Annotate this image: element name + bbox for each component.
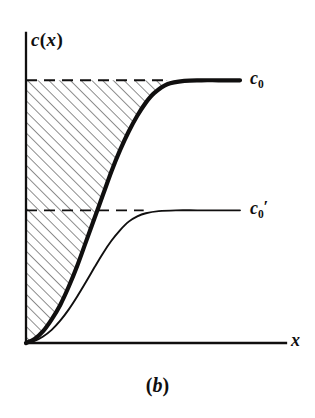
caption-paren-open: ( <box>146 374 153 396</box>
figure-container: c(x) x c0 c0′ (b) <box>0 0 315 418</box>
c0-label-subscript: 0 <box>258 78 264 90</box>
y-axis-label-c: c <box>31 29 40 50</box>
c0prime-label-prime: ′ <box>263 197 268 216</box>
y-axis-label: c(x) <box>31 30 63 49</box>
caption-paren-close: ) <box>163 374 170 396</box>
y-axis-label-x: x <box>47 29 57 50</box>
c0prime-curve-label: c0′ <box>250 199 269 217</box>
x-axis-label: x <box>291 331 300 349</box>
c0-label-base: c <box>250 68 258 88</box>
c0-curve-label: c0 <box>250 69 264 87</box>
y-axis-label-paren-open: ( <box>40 29 47 50</box>
figure-caption: (b) <box>0 375 315 395</box>
caption-letter: b <box>153 374 163 396</box>
y-axis-label-paren-close: ) <box>56 29 63 50</box>
c0prime-label-base: c <box>250 198 258 218</box>
